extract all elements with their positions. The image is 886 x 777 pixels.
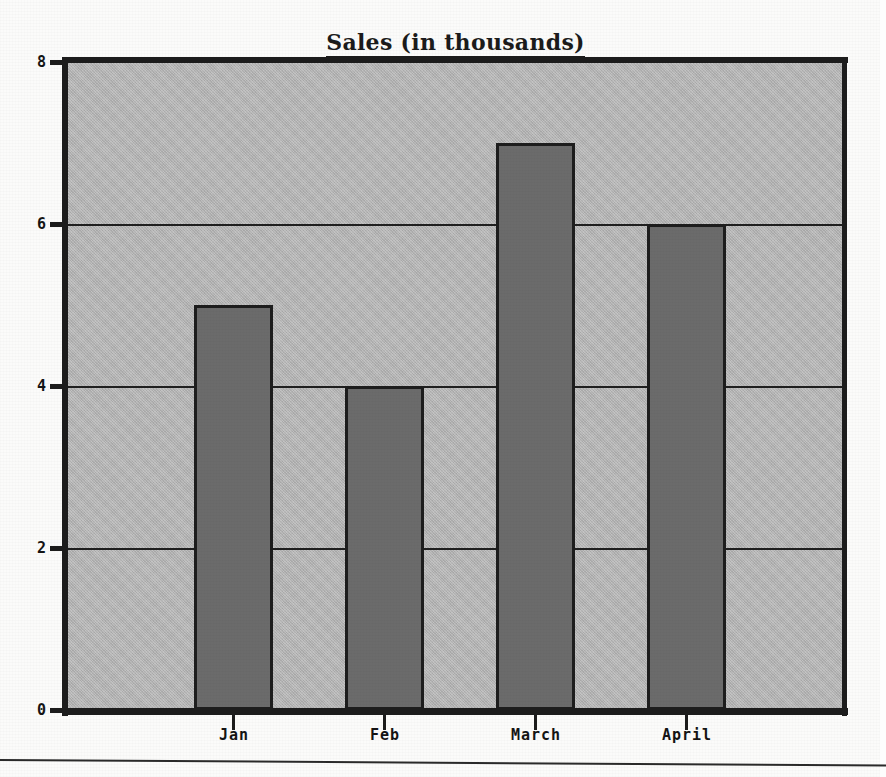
x-tick-label-april: April <box>617 728 757 743</box>
bar-april <box>647 224 726 710</box>
y-tick-mark-8 <box>50 60 68 65</box>
chart-title-text: Sales (in thousands) <box>326 29 585 58</box>
axis-bottom-line <box>62 708 848 715</box>
bar-march <box>496 143 575 710</box>
y-tick-mark-2 <box>50 546 68 551</box>
bar-feb <box>345 386 424 710</box>
x-tick-label-jan: Jan <box>164 728 304 743</box>
axis-top-line <box>63 57 848 63</box>
y-tick-mark-0 <box>50 708 68 713</box>
y-tick-mark-4 <box>50 384 68 389</box>
y-tick-label-6: 6 <box>20 217 46 232</box>
bar-jan <box>194 305 273 710</box>
x-tick-label-march: March <box>466 728 606 743</box>
gridline-4 <box>68 386 843 388</box>
y-tick-label-4: 4 <box>20 379 46 394</box>
y-tick-mark-6 <box>50 222 68 227</box>
y-tick-label-0: 0 <box>20 703 46 718</box>
gridline-6 <box>68 224 843 226</box>
gridline-2 <box>68 548 843 550</box>
y-tick-label-2: 2 <box>20 541 46 556</box>
chart-title: Sales (in thousands) <box>68 29 843 55</box>
y-tick-label-8: 8 <box>20 55 46 70</box>
x-tick-label-feb: Feb <box>315 728 455 743</box>
